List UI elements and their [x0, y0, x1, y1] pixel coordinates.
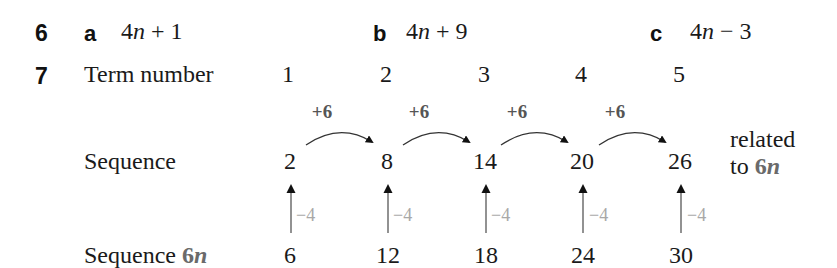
- note-prefix: to: [730, 153, 755, 179]
- constant-term: + 9: [430, 18, 468, 44]
- note-to-6n: to 6n: [730, 153, 780, 180]
- difference-label: +6: [497, 101, 537, 123]
- part-c-expression: 4n − 3: [690, 18, 752, 45]
- sequence-6n-term: 6: [260, 242, 320, 268]
- adjustment-label: −4: [491, 205, 510, 226]
- sequence-6n-term: 30: [651, 242, 711, 268]
- question-6-number: 6: [35, 20, 48, 47]
- difference-label: +6: [595, 101, 635, 123]
- label-variable: n: [194, 242, 207, 268]
- sequence-6n-term: 12: [358, 242, 418, 268]
- sequence-term: 2: [260, 148, 320, 175]
- constant-term: − 3: [714, 18, 752, 44]
- variable: n: [702, 18, 714, 44]
- up-arrow-icon: [482, 184, 491, 233]
- adjustment-label: −4: [296, 205, 315, 226]
- part-b-label: b: [373, 21, 386, 47]
- term-number-label: Term number: [84, 61, 214, 88]
- up-arrow-icon: [579, 184, 588, 233]
- sequence-term: 26: [650, 148, 710, 175]
- arc-arrow-icon: [306, 133, 372, 145]
- sequence-term: 8: [357, 148, 417, 175]
- question-7-number: 7: [35, 63, 48, 90]
- up-arrow-icon: [384, 184, 393, 233]
- sequence-term: 20: [552, 148, 612, 175]
- note-coefficient: 6: [755, 153, 767, 179]
- adjustment-label: −4: [589, 205, 608, 226]
- part-b-expression: 4n + 9: [406, 18, 468, 45]
- note-related: related: [730, 126, 795, 153]
- coefficient: 4: [406, 18, 418, 44]
- sequence-label: Sequence: [84, 148, 176, 175]
- sequence-6n-label: Sequence 6n: [84, 242, 207, 268]
- difference-label: +6: [302, 101, 342, 123]
- arc-arrow-icon: [599, 133, 665, 145]
- term-number: 4: [551, 61, 611, 88]
- term-number: 5: [649, 61, 709, 88]
- variable: n: [133, 18, 145, 44]
- arc-arrow-icon: [501, 133, 567, 145]
- part-a-expression: 4n + 1: [121, 18, 183, 45]
- note-variable: n: [767, 153, 780, 179]
- up-arrow-icon: [677, 184, 686, 233]
- up-arrow-icon: [287, 184, 296, 233]
- term-number: 2: [356, 61, 416, 88]
- difference-label: +6: [399, 101, 439, 123]
- arc-arrow-icon: [403, 133, 469, 145]
- part-c-label: c: [650, 21, 662, 47]
- adjustment-label: −4: [687, 205, 706, 226]
- variable: n: [418, 18, 430, 44]
- label-coefficient: 6: [182, 242, 194, 268]
- part-a-label: a: [84, 21, 96, 47]
- coefficient: 4: [121, 18, 133, 44]
- sequence-6n-term: 18: [456, 242, 516, 268]
- sequence-term: 14: [455, 148, 515, 175]
- sequence-6n-term: 24: [553, 242, 613, 268]
- term-number: 1: [258, 61, 318, 88]
- constant-term: + 1: [145, 18, 183, 44]
- term-number: 3: [454, 61, 514, 88]
- coefficient: 4: [690, 18, 702, 44]
- label-prefix: Sequence: [84, 242, 182, 268]
- adjustment-label: −4: [393, 205, 412, 226]
